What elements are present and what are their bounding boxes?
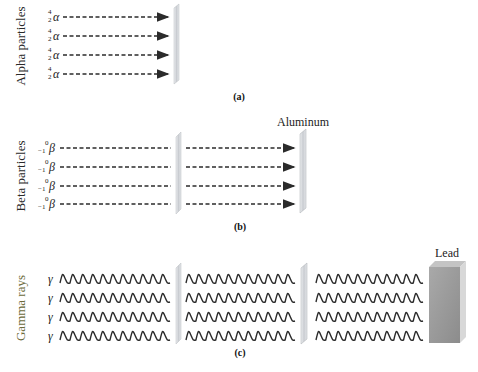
gamma-rows: γγγγ <box>48 272 423 343</box>
panel-beta: Beta particles 0 −1 β 0 −1 β 0 −1 β <box>13 115 330 233</box>
svg-text:α: α <box>53 29 60 43</box>
beta-particle-row: 0 −1 β <box>38 139 294 155</box>
gamma-symbol: γ <box>48 310 53 324</box>
aluminum-barrier <box>300 129 306 213</box>
svg-text:2: 2 <box>48 54 52 62</box>
svg-text:4: 4 <box>48 65 52 73</box>
beta-particle-row: 0 −1 β <box>38 177 294 193</box>
svg-text:4: 4 <box>48 27 52 35</box>
gamma-ray-row: γ <box>48 310 423 324</box>
alpha-particle-row: 4 2 α <box>48 8 168 24</box>
aluminum-barrier <box>301 263 307 344</box>
wave-icon <box>186 274 295 283</box>
gamma-symbol: γ <box>48 272 53 286</box>
gamma-ray-row: γ <box>48 329 423 343</box>
gamma-ray-row: γ <box>48 272 423 286</box>
wave-icon <box>186 312 295 321</box>
svg-text:β: β <box>48 179 55 193</box>
svg-text:α: α <box>53 67 60 81</box>
svg-text:2: 2 <box>48 16 52 24</box>
wave-icon <box>186 331 295 340</box>
paper-barrier <box>174 4 179 84</box>
caption-b: (b) <box>234 221 246 233</box>
svg-text:β: β <box>48 141 55 155</box>
wave-icon <box>316 293 423 302</box>
wave-icon <box>60 293 170 302</box>
gamma-symbol: γ <box>48 291 53 305</box>
beta-particle-row: 0 −1 β <box>38 195 294 211</box>
alpha-rows: 4 2 α 4 2 α 4 2 α 4 2 α <box>48 8 168 81</box>
paper-barrier <box>176 132 181 214</box>
gamma-ray-row: γ <box>48 291 423 305</box>
svg-text:−1: −1 <box>38 166 46 174</box>
svg-text:4: 4 <box>48 8 52 16</box>
wave-icon <box>316 312 423 321</box>
wave-icon <box>60 312 170 321</box>
svg-text:α: α <box>53 10 60 24</box>
svg-text:−1: −1 <box>38 203 46 211</box>
lead-block <box>429 261 466 343</box>
lead-label: Lead <box>435 246 459 260</box>
svg-text:β: β <box>48 160 55 174</box>
caption-a: (a) <box>233 91 245 103</box>
wave-icon <box>316 331 423 340</box>
panel-gamma: Gamma rays γγγγ Lead (c) <box>13 246 466 359</box>
svg-text:2: 2 <box>48 35 52 43</box>
alpha-particles-label: Alpha particles <box>13 6 28 85</box>
radiation-penetration-diagram: Alpha particles 4 2 α 4 2 α 4 2 α <box>0 0 478 372</box>
svg-text:−1: −1 <box>38 147 46 155</box>
svg-text:2: 2 <box>48 73 52 81</box>
paper-barrier <box>176 263 181 344</box>
alpha-particle-row: 4 2 α <box>48 46 168 62</box>
panel-alpha: Alpha particles 4 2 α 4 2 α 4 2 α <box>13 4 245 103</box>
wave-icon <box>186 293 295 302</box>
alpha-particle-row: 4 2 α <box>48 65 168 81</box>
alpha-particle-row: 4 2 α <box>48 27 168 43</box>
aluminum-label: Aluminum <box>277 115 330 129</box>
gamma-symbol: γ <box>48 329 53 343</box>
wave-icon <box>60 331 170 340</box>
svg-text:4: 4 <box>48 46 52 54</box>
beta-particle-row: 0 −1 β <box>38 158 294 174</box>
beta-particles-label: Beta particles <box>13 140 28 211</box>
svg-text:α: α <box>53 48 60 62</box>
gamma-rays-label: Gamma rays <box>13 275 28 341</box>
wave-icon <box>60 274 170 283</box>
wave-icon <box>316 274 423 283</box>
svg-text:β: β <box>48 197 55 211</box>
caption-c: (c) <box>234 347 245 359</box>
svg-text:−1: −1 <box>38 185 46 193</box>
beta-rows: 0 −1 β 0 −1 β 0 −1 β 0 − <box>38 139 294 211</box>
